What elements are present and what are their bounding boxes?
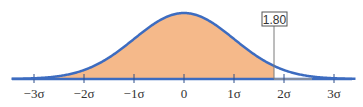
normal-distribution-chart: −3σ−2σ−1σ01σ2σ3σ 1.80 — [0, 0, 363, 107]
x-tick-label: −3σ — [24, 86, 45, 101]
x-tick-label: −2σ — [74, 86, 95, 101]
x-tick-label: 3σ — [327, 86, 341, 101]
x-tick-label: 0 — [181, 86, 188, 101]
x-tick-label: 1σ — [227, 86, 241, 101]
x-tick-label: 2σ — [277, 86, 291, 101]
x-tick-label: −1σ — [124, 86, 145, 101]
shaded-area — [12, 13, 275, 79]
marker-label: 1.80 — [263, 13, 287, 27]
